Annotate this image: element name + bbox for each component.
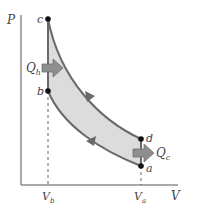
point-c-label: c xyxy=(37,13,43,26)
qc-label: Qc xyxy=(156,146,171,162)
point-a xyxy=(138,163,144,169)
qh-label: Qh xyxy=(26,61,41,77)
point-d xyxy=(138,136,144,142)
point-c xyxy=(45,16,51,22)
vb-label: Vb xyxy=(42,190,55,205)
point-d-label: d xyxy=(146,132,153,145)
point-b xyxy=(45,88,51,94)
cycle-area xyxy=(48,19,141,166)
va-label: Va xyxy=(134,190,146,205)
point-a-label: a xyxy=(146,162,153,175)
point-b-label: b xyxy=(37,85,44,98)
x-axis-label: V xyxy=(171,189,181,203)
pv-diagram: P V c b d a Qh Qc Vb Va xyxy=(0,0,197,216)
y-axis-label: P xyxy=(6,13,16,27)
